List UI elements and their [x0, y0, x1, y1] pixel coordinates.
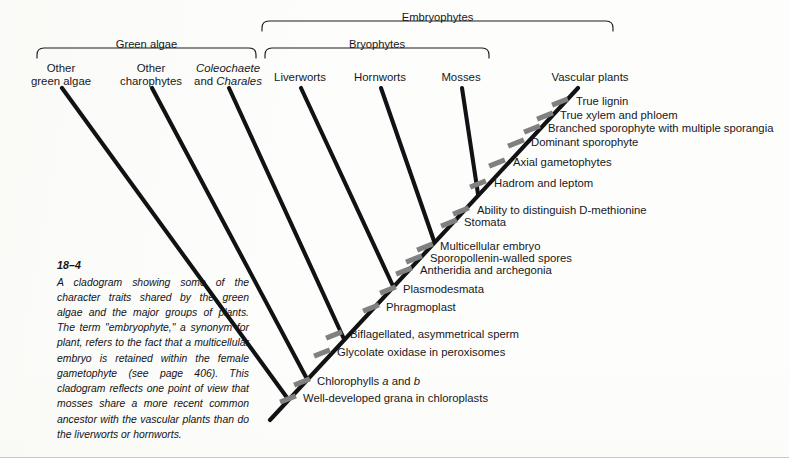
- taxon-label-line1: Hornworts: [354, 71, 406, 83]
- taxon-label-liverworts: Liverworts: [274, 71, 326, 84]
- trait-label-true-xylem-and-phloem: True xylem and phloem: [560, 109, 678, 122]
- trait-label-branched-sporophyte: Branched sporophyte with multiple sporan…: [548, 122, 773, 135]
- trait-label-grana-chloroplasts: Well-developed grana in chloroplasts: [303, 392, 488, 405]
- cladogram-figure: Green algaeEmbryophytesBryophytes Otherg…: [0, 0, 789, 458]
- taxon-label-line1: Other: [47, 62, 76, 74]
- taxon-label-line1: Vascular plants: [551, 71, 628, 83]
- taxon-label-other-charophytes: Othercharophytes: [120, 62, 182, 89]
- figure-caption-text: A cladogram showing some of the characte…: [57, 275, 249, 443]
- trait-label-glycolate-oxidase: Glycolate oxidase in peroxisomes: [337, 346, 505, 359]
- branch-line-mosses: [462, 88, 478, 194]
- taxon-label-line2: green algae: [31, 75, 91, 87]
- trait-label-antheridia-archegonia: Antheridia and archegonia: [420, 264, 552, 277]
- taxon-label-hornworts: Hornworts: [354, 71, 406, 84]
- taxon-label-line1: Other: [137, 62, 166, 74]
- figure-caption: 18–4 A cladogram showing some of the cha…: [57, 258, 249, 442]
- trait-label-dominant-sporophyte: Dominant sporophyte: [531, 136, 638, 149]
- trait-label-axial-gametophytes: Axial gametophytes: [513, 156, 612, 169]
- trait-label-chlorophylls-a-and-b: Chlorophylls a and b: [317, 375, 420, 388]
- trait-label-phragmoplast: Phragmoplast: [386, 301, 456, 314]
- group-label-bryophytes: Bryophytes: [265, 38, 489, 51]
- trait-label-true-lignin: True lignin: [576, 95, 628, 108]
- trait-hash-mark-biflagellated-sperm: [325, 329, 343, 340]
- taxon-label-line1: Liverworts: [274, 71, 326, 83]
- taxon-label-coleochaete-charales: Coleochaeteand Charales: [194, 62, 262, 89]
- trait-label-hadrom-and-leptom: Hadrom and leptom: [494, 177, 593, 190]
- taxon-label-other-green-algae: Othergreen algae: [31, 62, 91, 89]
- taxon-label-line1: Mosses: [441, 71, 480, 83]
- figure-number: 18–4: [57, 258, 249, 274]
- trait-hash-mark-true-xylem-and-phloem: [536, 110, 554, 121]
- taxon-label-line2: and Charales: [194, 75, 262, 87]
- branch-line-hornworts: [381, 88, 434, 241]
- group-label-embryophytes: Embryophytes: [262, 11, 613, 24]
- taxon-label-vascular-plants: Vascular plants: [551, 71, 628, 84]
- taxon-label-line2: charophytes: [120, 75, 182, 87]
- trait-label-biflagellated-sperm: Biflagellated, asymmetrical sperm: [350, 328, 519, 341]
- trait-label-stomata: Stomata: [464, 216, 506, 229]
- taxon-label-line1: Coleochaete: [196, 62, 260, 74]
- group-label-green-algae: Green algae: [37, 38, 256, 51]
- taxon-label-mosses: Mosses: [441, 71, 480, 84]
- trait-label-plasmodesmata: Plasmodesmata: [403, 283, 484, 296]
- branch-line-liverworts: [301, 88, 393, 286]
